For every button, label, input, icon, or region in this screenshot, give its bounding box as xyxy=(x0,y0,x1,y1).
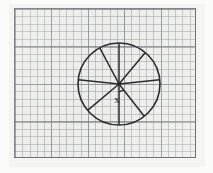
angle-label-x: x xyxy=(114,93,120,105)
radius-right xyxy=(119,80,160,84)
center-point xyxy=(117,82,121,86)
radius-up-left xyxy=(100,48,119,84)
figure-canvas: x xyxy=(0,0,213,173)
radius-up-right xyxy=(119,53,145,84)
radius-down-right xyxy=(119,84,144,116)
radius-left xyxy=(78,80,119,84)
geometry-drawing: x xyxy=(0,0,213,173)
